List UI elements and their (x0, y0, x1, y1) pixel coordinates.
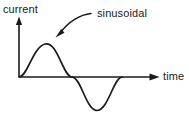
arrow-right-icon (150, 74, 160, 81)
annotation-arrow-group (56, 14, 92, 38)
x-axis-group (19, 74, 160, 81)
arrow-up-icon (16, 17, 22, 26)
curved-arrow-icon (61, 14, 92, 33)
y-axis-group (16, 17, 22, 78)
x-axis-label: time (163, 70, 184, 82)
annotation-label-sinusoidal: sinusoidal (97, 7, 147, 19)
figure-canvas (0, 0, 189, 125)
y-axis-label: current (3, 3, 38, 15)
sinusoidal-current-figure: current time sinusoidal (0, 0, 189, 125)
